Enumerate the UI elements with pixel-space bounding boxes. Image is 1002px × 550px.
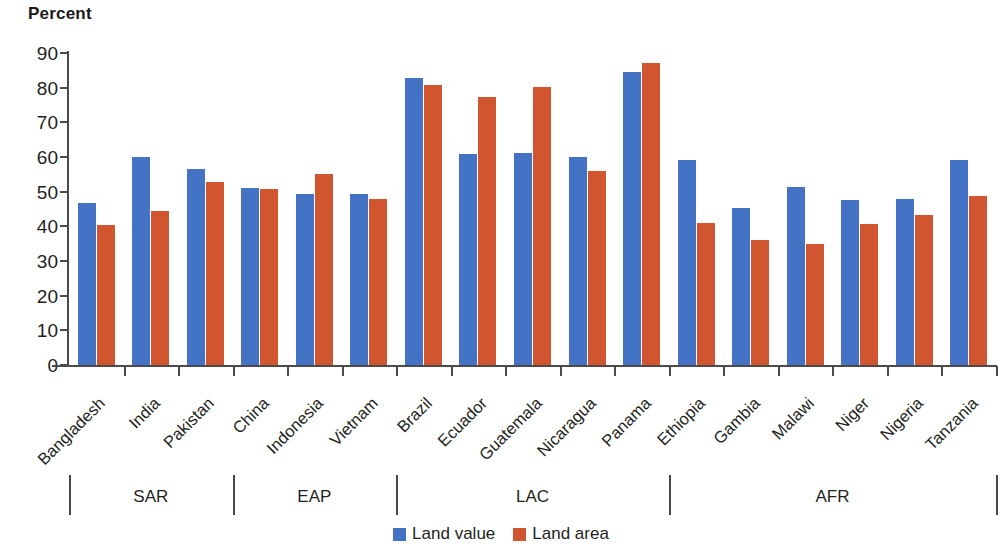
bar-value-bangladesh	[78, 203, 96, 365]
bar-value-indonesia	[296, 194, 314, 365]
bar-value-gambia	[732, 208, 750, 365]
bar-value-nicaragua	[569, 157, 587, 365]
x-axis-line	[52, 365, 997, 367]
x-axis-tick-mark	[451, 366, 453, 376]
bar-value-pakistan	[187, 169, 205, 365]
plot-area	[68, 53, 993, 365]
bar-value-ecuador	[459, 154, 477, 365]
x-axis-tick-mark	[124, 366, 126, 376]
group-label-lac: LAC	[516, 488, 549, 505]
y-axis-tick-mark	[60, 191, 68, 193]
bar-area-ecuador	[478, 97, 496, 365]
bar-value-panama	[623, 72, 641, 365]
group-separator	[233, 475, 235, 515]
bar-area-nigeria	[915, 215, 933, 365]
legend-item-land-area[interactable]: Land area	[513, 524, 609, 544]
bar-area-china	[260, 189, 278, 365]
bar-area-nicaragua	[588, 171, 606, 365]
x-axis-tick-mark	[887, 366, 889, 376]
legend-item-label: Land area	[532, 524, 609, 544]
y-axis-tick-label: 20	[14, 286, 58, 305]
x-axis-tick-mark	[832, 366, 834, 376]
legend-item-label: Land value	[412, 524, 495, 544]
y-axis-tick-label: 70	[14, 113, 58, 132]
bar-area-tanzania	[969, 196, 987, 365]
y-axis-tick-mark	[60, 156, 68, 158]
y-axis-tick-label: 10	[14, 321, 58, 340]
bar-area-indonesia	[315, 174, 333, 365]
x-axis-tick-mark	[178, 366, 180, 376]
x-axis-tick-mark	[233, 366, 235, 376]
x-axis-tick-mark	[723, 366, 725, 376]
x-axis-tick-mark	[941, 366, 943, 376]
bar-value-tanzania	[950, 160, 968, 365]
bar-value-ethiopia	[678, 160, 696, 365]
bar-area-panama	[642, 63, 660, 365]
y-axis-tick-mark	[60, 87, 68, 89]
y-axis-tick-label: 80	[14, 78, 58, 97]
bar-area-india	[151, 211, 169, 365]
bar-value-brazil	[405, 78, 423, 365]
bar-value-nigeria	[896, 199, 914, 365]
bar-value-india	[132, 157, 150, 365]
x-axis-tick-mark	[342, 366, 344, 376]
x-axis-tick-mark	[614, 366, 616, 376]
y-axis-tick-mark	[60, 329, 68, 331]
group-label-eap: EAP	[297, 488, 331, 505]
group-separator	[669, 475, 671, 515]
bar-area-ethiopia	[697, 223, 715, 365]
group-separator	[996, 475, 998, 515]
bar-area-bangladesh	[97, 225, 115, 365]
x-axis-tick-mark	[560, 366, 562, 376]
group-label-afr: AFR	[815, 488, 849, 505]
bar-area-niger	[860, 224, 878, 365]
x-axis-tick-mark	[669, 366, 671, 376]
bar-value-vietnam	[350, 194, 368, 365]
chart-legend: Land valueLand area	[0, 524, 1002, 544]
bar-chart: Percent 0102030405060708090 BangladeshIn…	[0, 0, 1002, 550]
x-axis-tick-mark	[287, 366, 289, 376]
group-separator	[69, 475, 71, 515]
square-swatch-icon	[393, 528, 406, 541]
bar-area-pakistan	[206, 182, 224, 365]
y-axis-tick-mark	[60, 52, 68, 54]
y-axis-tick-label: 40	[14, 217, 58, 236]
group-label-sar: SAR	[133, 488, 168, 505]
y-axis-tick-mark	[60, 225, 68, 227]
y-axis-tick-mark	[60, 260, 68, 262]
y-axis-tick-label: 90	[14, 44, 58, 63]
y-axis-tick-label: 50	[14, 182, 58, 201]
bar-area-brazil	[424, 85, 442, 365]
bar-value-malawi	[787, 187, 805, 365]
y-axis-tick-label: 60	[14, 148, 58, 167]
y-axis-tick-mark	[60, 121, 68, 123]
legend-item-land-value[interactable]: Land value	[393, 524, 495, 544]
x-axis-tick-mark	[778, 366, 780, 376]
bar-area-vietnam	[369, 199, 387, 365]
bar-value-guatemala	[514, 153, 532, 365]
x-axis-tick-mark	[396, 366, 398, 376]
y-axis-tick-mark	[60, 295, 68, 297]
y-axis-tick-mark	[60, 364, 68, 366]
group-separator	[396, 475, 398, 515]
y-axis-tick-label: 30	[14, 252, 58, 271]
bar-value-china	[241, 188, 259, 365]
square-swatch-icon	[513, 528, 526, 541]
bar-area-gambia	[751, 240, 769, 365]
bar-value-niger	[841, 200, 859, 365]
x-axis-tick-mark	[996, 366, 998, 376]
x-axis-tick-mark	[505, 366, 507, 376]
bar-area-malawi	[806, 244, 824, 365]
bar-area-guatemala	[533, 87, 551, 365]
